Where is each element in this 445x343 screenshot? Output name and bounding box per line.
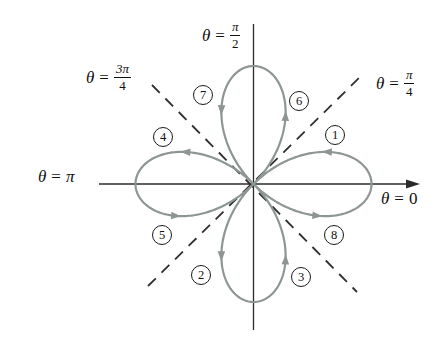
equals-sign: = bbox=[51, 168, 61, 185]
fraction: 3π4 bbox=[114, 62, 131, 92]
trace-step-8: 8 bbox=[324, 225, 344, 245]
curve-direction-arrow-icon-3 bbox=[282, 254, 290, 264]
theta-symbol: θ bbox=[202, 27, 210, 44]
zero-value: 0 bbox=[409, 190, 418, 207]
fraction: π2 bbox=[230, 20, 241, 50]
dashed-line-theta-3pi-over-4 bbox=[152, 85, 357, 292]
trace-step-5: 5 bbox=[152, 225, 172, 245]
theta-symbol: θ bbox=[86, 69, 94, 86]
equals-sign: = bbox=[215, 27, 225, 44]
theta-symbol: θ bbox=[381, 190, 389, 207]
equals-sign: = bbox=[389, 75, 399, 92]
trace-step-2: 2 bbox=[191, 265, 211, 285]
label-theta-3pi-over-4: θ=3π4 bbox=[86, 62, 131, 92]
trace-step-1: 1 bbox=[325, 125, 345, 145]
equals-sign: = bbox=[99, 69, 109, 86]
fraction-denominator: 2 bbox=[232, 36, 239, 51]
trace-step-6: 6 bbox=[289, 91, 309, 111]
theta-symbol: θ bbox=[376, 75, 384, 92]
fraction-numerator: π bbox=[404, 68, 415, 84]
fraction: π4 bbox=[404, 68, 415, 98]
curve-direction-arrow-icon-1 bbox=[322, 148, 332, 156]
fraction-numerator: π bbox=[230, 20, 241, 36]
horizontal-axis-arrowhead-icon bbox=[406, 179, 420, 188]
trace-step-7: 7 bbox=[193, 85, 213, 105]
equals-sign: = bbox=[394, 190, 404, 207]
curve-direction-arrow-icon-7 bbox=[218, 105, 226, 115]
polar-rose-figure: θ=π2 θ=3π4 θ=π4 θ=π θ=0 1 2 3 4 5 6 7 8 bbox=[0, 0, 445, 343]
label-theta-pi-over-2: θ=π2 bbox=[202, 20, 240, 50]
curve-direction-arrow-icon-2 bbox=[218, 251, 226, 261]
curve-direction-arrow-icon-4 bbox=[180, 148, 190, 156]
trace-step-4: 4 bbox=[153, 127, 173, 147]
theta-symbol: θ bbox=[38, 168, 46, 185]
label-theta-0: θ=0 bbox=[381, 190, 417, 207]
fraction-denominator: 4 bbox=[119, 78, 126, 93]
fraction-denominator: 4 bbox=[406, 84, 413, 99]
curve-direction-arrow-icon-6 bbox=[282, 111, 290, 121]
pi-symbol: π bbox=[66, 168, 75, 185]
fraction-numerator: 3π bbox=[114, 62, 131, 78]
label-theta-pi-over-4: θ=π4 bbox=[376, 68, 414, 98]
label-theta-pi: θ=π bbox=[38, 168, 74, 185]
trace-step-3: 3 bbox=[291, 267, 311, 287]
